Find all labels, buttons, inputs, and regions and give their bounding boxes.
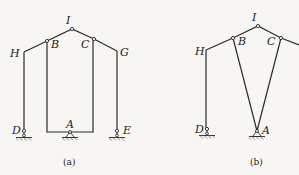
figure-b: H B I C D A (b) bbox=[194, 11, 299, 167]
label-g: G bbox=[120, 46, 129, 59]
member-ba bbox=[233, 38, 257, 131]
label-d: D bbox=[194, 123, 204, 136]
label-b: B bbox=[237, 35, 246, 48]
label-i: I bbox=[65, 14, 71, 27]
hinge-i bbox=[256, 24, 259, 27]
label-h: H bbox=[194, 45, 205, 58]
hinge-d bbox=[22, 129, 25, 132]
hinge-c bbox=[279, 36, 282, 39]
label-h: H bbox=[9, 47, 20, 60]
truss-diagrams: H B I C G D A E (a) bbox=[0, 0, 299, 175]
caption-b: (b) bbox=[250, 157, 263, 167]
roof-member bbox=[24, 29, 117, 52]
hinge-d bbox=[205, 127, 208, 130]
hinge-i bbox=[70, 27, 73, 30]
hinge-b bbox=[231, 36, 234, 39]
member-ca bbox=[257, 38, 281, 131]
hinge-b bbox=[45, 39, 48, 42]
label-a: A bbox=[65, 118, 74, 131]
label-e: E bbox=[122, 124, 131, 137]
hinge-c bbox=[92, 37, 95, 40]
label-a: A bbox=[261, 124, 270, 137]
label-d: D bbox=[11, 124, 21, 137]
label-b: B bbox=[50, 38, 59, 51]
hinge-e bbox=[115, 129, 118, 132]
label-i: I bbox=[251, 11, 257, 24]
figure-a: H B I C G D A E (a) bbox=[9, 14, 131, 167]
label-c: C bbox=[267, 35, 276, 48]
roof-member bbox=[206, 26, 299, 50]
caption-a: (a) bbox=[63, 157, 75, 167]
label-c: C bbox=[81, 38, 90, 51]
